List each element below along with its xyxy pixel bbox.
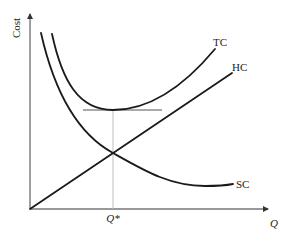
sc-label: SC	[236, 178, 249, 190]
tc-label: TC	[213, 36, 227, 48]
hc-label: HC	[232, 61, 247, 73]
q-star-label: Q*	[106, 212, 120, 224]
x-axis-label: Q	[270, 217, 278, 229]
cost-diagram: Cost Q Q* TC HC SC	[0, 0, 288, 232]
y-axis-label: Cost	[10, 18, 22, 38]
tc-curve	[52, 34, 215, 110]
